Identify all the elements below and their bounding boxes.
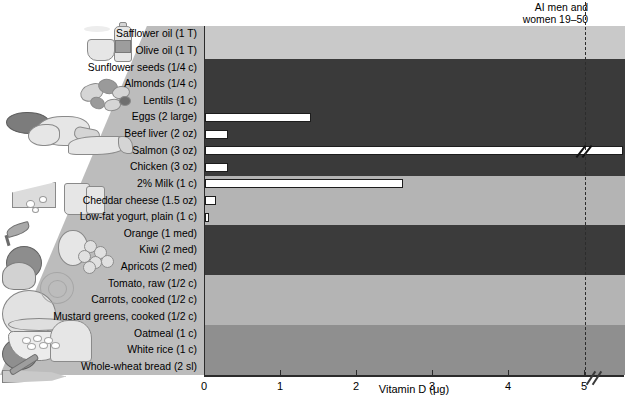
- food-label: White rice (1 c): [127, 342, 197, 358]
- food-label: Cheddar cheese (1.5 oz): [83, 193, 197, 209]
- food-label: Safflower oil (1 T): [116, 26, 197, 42]
- x-axis-tick: [280, 370, 281, 376]
- food-label: Eggs (2 large): [132, 109, 197, 125]
- x-axis-tick: [508, 370, 509, 376]
- bar-2-milk-1-c: [205, 179, 403, 188]
- adequate-intake-annotation: AI men and women 19–50: [464, 2, 588, 26]
- food-label: Olive oil (1 T): [135, 43, 197, 59]
- ai-note-line1: AI men and: [464, 2, 588, 14]
- food-label: Whole-wheat bread (2 sl): [81, 359, 197, 375]
- food-label: Carrots, cooked (1/2 c): [91, 292, 197, 308]
- food-label-column: Safflower oil (1 T)Olive oil (1 T)Sunflo…: [0, 26, 201, 375]
- food-label: 2% Milk (1 c): [137, 176, 197, 192]
- adequate-intake-reference-line: [585, 2, 586, 375]
- food-label: Chicken (3 oz): [130, 159, 197, 175]
- food-label: Kiwi (2 med): [139, 242, 197, 258]
- x-axis: 012345: [204, 375, 624, 377]
- food-label: Lentils (1 c): [143, 93, 197, 109]
- food-label: Low-fat yogurt, plain (1 c): [80, 209, 197, 225]
- bar-low-fat-yogurt-plain-1-c: [205, 213, 209, 222]
- band-oils: [205, 26, 625, 59]
- plot-area: [204, 26, 625, 375]
- x-axis-tick: [204, 370, 205, 376]
- food-label: Orange (1 med): [124, 226, 197, 242]
- food-label: Beef liver (2 oz): [124, 126, 197, 142]
- food-label: Mustard greens, cooked (1/2 c): [53, 309, 197, 325]
- bar-chicken-3-oz: [205, 163, 228, 172]
- x-axis-tick: [356, 370, 357, 376]
- bar-cheddar-cheese-1-5-oz: [205, 196, 216, 205]
- food-label: Almonds (1/4 c): [124, 76, 197, 92]
- x-axis-tick: [584, 370, 585, 376]
- x-axis-title: Vitamin D (μg): [204, 383, 624, 395]
- band-fruits: [205, 225, 625, 275]
- bar-eggs-2-large: [205, 113, 311, 122]
- band-grains: [205, 325, 625, 375]
- food-label: Apricots (2 med): [121, 259, 197, 275]
- x-axis-tick: [432, 370, 433, 376]
- food-label: Oatmeal (1 c): [134, 326, 197, 342]
- vitamin-d-bar-chart: Safflower oil (1 T)Olive oil (1 T)Sunflo…: [0, 0, 639, 405]
- food-label: Salmon (3 oz): [132, 143, 197, 159]
- ai-note-line2: women 19–50: [464, 14, 588, 26]
- food-label: Sunflower seeds (1/4 c): [88, 60, 197, 76]
- food-label: Tomato, raw (1/2 c): [108, 276, 197, 292]
- bar-beef-liver-2-oz: [205, 130, 228, 139]
- bar-salmon-3-oz: [205, 146, 623, 155]
- band-vegetables: [205, 275, 625, 325]
